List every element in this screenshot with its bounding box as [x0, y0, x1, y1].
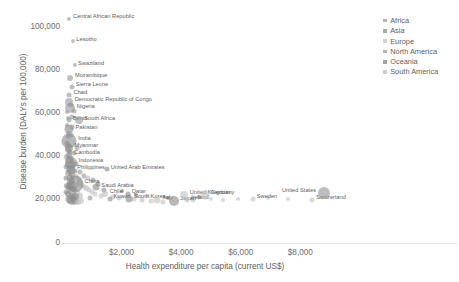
- legend-swatch-icon: [383, 29, 387, 33]
- data-point-label: India: [78, 136, 90, 142]
- data-point-bubble[interactable]: [286, 197, 290, 201]
- data-point-label: United Arab Emirates: [111, 165, 165, 171]
- legend-item-label: Africa: [390, 17, 409, 24]
- data-point-bubble[interactable]: [67, 17, 71, 21]
- legend-swatch-icon: [383, 70, 387, 74]
- x-tick-label: $6,000: [228, 249, 253, 257]
- legend: AfricaAsiaEuropeNorth AmericaOceaniaSout…: [383, 16, 459, 78]
- data-point-bubble[interactable]: [73, 63, 77, 67]
- data-point-label: Myanmar: [74, 143, 98, 149]
- legend-item-label: North America: [390, 48, 437, 55]
- data-point-label: Philippines: [77, 165, 105, 171]
- data-point-bubble[interactable]: [310, 197, 315, 202]
- legend-item-label: Europe: [390, 38, 414, 45]
- data-point-bubble[interactable]: [180, 191, 188, 199]
- data-point-bubble[interactable]: [67, 75, 73, 81]
- x-tick-label: $8,000: [288, 249, 313, 257]
- legend-item-africa[interactable]: Africa: [383, 16, 459, 25]
- data-point-label: Sweden: [257, 195, 278, 201]
- data-point-bubble[interactable]: [126, 195, 133, 202]
- legend-item-asia[interactable]: Asia: [383, 26, 459, 35]
- data-point-bubble[interactable]: [169, 196, 179, 206]
- legend-item-label: Oceania: [390, 58, 418, 65]
- scatter-chart: 020,00040,00060,00080,000100,000 $2,000$…: [0, 0, 459, 282]
- legend-swatch-icon: [383, 60, 387, 64]
- data-point-bubble[interactable]: [201, 190, 210, 199]
- data-point-label: Germany: [211, 190, 234, 196]
- y-tick-label: 20,000: [4, 195, 60, 203]
- data-point-label: Indonesia: [79, 158, 104, 164]
- data-point-label: South Africa: [84, 116, 115, 122]
- data-point-label: Lesotho: [76, 37, 96, 43]
- data-point-bubble[interactable]: [65, 144, 73, 152]
- data-point-label: Pakistan: [76, 125, 98, 131]
- data-point-label: Swaziland: [78, 61, 104, 67]
- data-point-bubble[interactable]: [92, 192, 97, 197]
- data-points-layer: Central African RepublicLesothoSwaziland…: [62, 10, 348, 243]
- data-point-bubble[interactable]: [102, 191, 108, 197]
- data-point-label: South Korea: [134, 195, 166, 201]
- legend-item-label: Asia: [390, 27, 404, 34]
- data-point-label: United States: [282, 188, 316, 194]
- legend-item-south-america[interactable]: South America: [383, 67, 459, 76]
- x-axis-line: [62, 243, 457, 244]
- legend-item-europe[interactable]: Europe: [383, 37, 459, 46]
- data-point-bubble[interactable]: [88, 195, 93, 200]
- y-tick-label: 100,000: [4, 23, 60, 31]
- data-point-bubble[interactable]: [67, 165, 76, 174]
- y-tick-label: 60,000: [4, 109, 60, 117]
- data-point-bubble[interactable]: [93, 184, 100, 191]
- data-point-label: Central African Republic: [73, 14, 134, 20]
- legend-swatch-icon: [383, 39, 387, 43]
- data-point-bubble[interactable]: [67, 92, 72, 97]
- y-tick-label: 40,000: [4, 152, 60, 160]
- legend-item-north-america[interactable]: North America: [383, 47, 459, 56]
- data-point-label: Mozambique: [75, 74, 108, 80]
- data-point-bubble[interactable]: [65, 103, 75, 113]
- data-point-bubble[interactable]: [221, 198, 225, 202]
- data-point-label: Nigeria: [77, 104, 95, 110]
- y-tick-label: 80,000: [4, 66, 60, 74]
- y-tick-label: 0: [4, 239, 60, 247]
- legend-swatch-icon: [383, 19, 387, 23]
- y-axis-ticks: 020,00040,00060,00080,000100,000: [0, 0, 60, 282]
- data-point-bubble[interactable]: [209, 197, 213, 201]
- data-point-bubble[interactable]: [78, 198, 84, 204]
- y-axis-title: Disease burden (DALYs per 100,000): [19, 27, 28, 217]
- data-point-label: Chad: [74, 90, 88, 96]
- data-point-bubble[interactable]: [154, 196, 161, 203]
- data-point-bubble[interactable]: [250, 196, 255, 201]
- data-point-bubble[interactable]: [71, 39, 75, 43]
- data-point-bubble[interactable]: [236, 197, 240, 201]
- legend-swatch-icon: [383, 50, 387, 54]
- data-point-bubble[interactable]: [104, 167, 109, 172]
- x-tick-label: $4,000: [169, 249, 194, 257]
- x-tick-label: $2,000: [109, 249, 134, 257]
- data-point-bubble[interactable]: [107, 196, 112, 201]
- legend-item-oceania[interactable]: Oceania: [383, 57, 459, 66]
- data-point-bubble[interactable]: [318, 187, 330, 199]
- x-axis-title: Health expenditure per capita (current U…: [62, 262, 348, 271]
- data-point-bubble[interactable]: [66, 118, 71, 123]
- data-point-bubble[interactable]: [65, 191, 71, 197]
- data-point-label: Cambodia: [74, 151, 100, 157]
- data-point-bubble[interactable]: [66, 175, 83, 192]
- data-point-label: Sierra Leone: [76, 82, 109, 88]
- legend-item-label: South America: [390, 68, 438, 75]
